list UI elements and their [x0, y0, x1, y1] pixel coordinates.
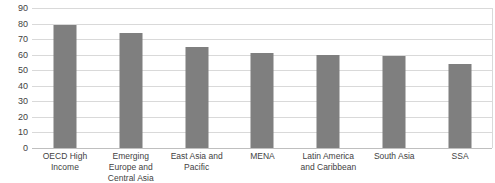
- gridline-0: [32, 148, 492, 149]
- x-axis-label: Emerging Europe and Central Asia: [98, 151, 164, 183]
- x-axis-label: East Asia and Pacific: [164, 151, 230, 173]
- x-axis-label: SSA: [427, 151, 493, 162]
- y-tick-label: 90: [18, 3, 28, 13]
- y-tick-label: 10: [18, 127, 28, 137]
- y-tick-label: 0: [23, 143, 28, 153]
- x-axis: OECD High IncomeEmerging Europe and Cent…: [32, 151, 493, 183]
- bar-slot: [32, 8, 98, 148]
- y-tick-label: 30: [18, 96, 28, 106]
- x-axis-label: South Asia: [361, 151, 427, 162]
- bar-slot: [230, 8, 296, 148]
- x-axis-label: Latin America and Caribbean: [295, 151, 361, 173]
- bar-slot: [361, 8, 427, 148]
- y-tick-label: 50: [18, 65, 28, 75]
- y-tick-label: 70: [18, 34, 28, 44]
- bar[interactable]: [185, 47, 208, 148]
- y-tick-label: 20: [18, 112, 28, 122]
- bar[interactable]: [383, 56, 406, 148]
- y-axis: 9080706050403020100: [0, 8, 28, 148]
- bars-layer: [32, 8, 493, 148]
- bar-slot: [427, 8, 493, 148]
- bar[interactable]: [317, 55, 340, 148]
- y-tick-label: 60: [18, 50, 28, 60]
- bar[interactable]: [251, 53, 274, 148]
- bar-slot: [98, 8, 164, 148]
- bar[interactable]: [449, 64, 472, 148]
- y-tick-label: 40: [18, 81, 28, 91]
- bar-chart: 9080706050403020100 OECD High IncomeEmer…: [0, 0, 495, 183]
- x-axis-label: MENA: [230, 151, 296, 162]
- bar[interactable]: [53, 25, 76, 148]
- bar[interactable]: [119, 33, 142, 148]
- bar-slot: [295, 8, 361, 148]
- x-axis-label: OECD High Income: [32, 151, 98, 173]
- y-tick-label: 80: [18, 19, 28, 29]
- bar-slot: [164, 8, 230, 148]
